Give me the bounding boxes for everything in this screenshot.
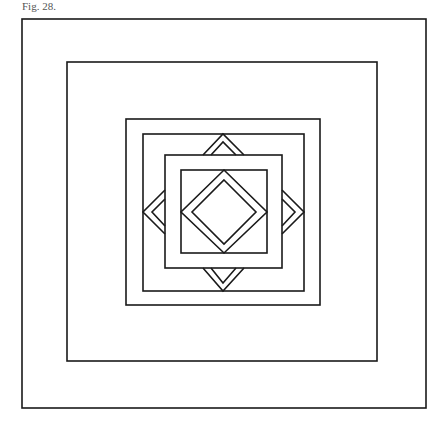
squares-group <box>22 19 426 408</box>
diamond-inner <box>192 180 256 244</box>
nested-squares-diagram <box>0 0 445 425</box>
square-3 <box>126 119 320 305</box>
diamonds-group <box>181 170 267 253</box>
square-2 <box>67 62 377 361</box>
diamond-outer <box>181 170 267 253</box>
square-1-outer <box>22 19 426 408</box>
chevron-left-outer <box>143 190 165 234</box>
square-6-inner <box>181 170 267 253</box>
chevron-right-outer <box>282 190 304 234</box>
chevron-bottom-outer <box>203 268 244 291</box>
chevron-top-outer <box>203 134 244 155</box>
